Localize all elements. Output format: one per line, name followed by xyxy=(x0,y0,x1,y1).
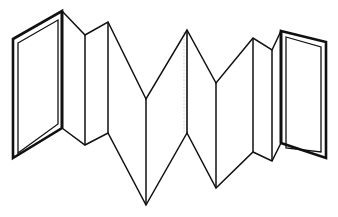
fold-face-8 xyxy=(272,31,281,161)
right-panel-fill xyxy=(281,31,326,158)
folding-screen-drawing: Folding screen accordion line drawing Pe… xyxy=(0,0,338,217)
fold-face-2 xyxy=(85,22,108,145)
figure-canvas: Folding screen accordion line drawing Pe… xyxy=(0,0,338,217)
right-end-panel-group xyxy=(281,31,326,158)
fold-face-7 xyxy=(253,38,272,161)
